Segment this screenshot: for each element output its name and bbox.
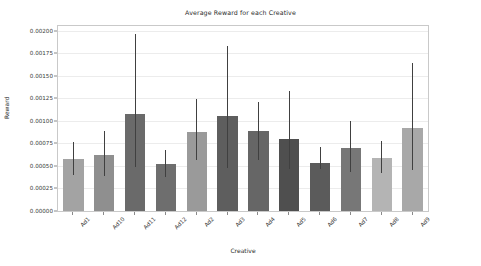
gridline bbox=[58, 53, 428, 54]
error-bar-ad2 bbox=[196, 99, 197, 159]
x-tick-mark bbox=[257, 212, 258, 215]
x-tick-label-ad5: Ad5 bbox=[295, 216, 307, 228]
x-tick-label-ad2: Ad2 bbox=[203, 216, 215, 228]
y-tick-label: 0.00175 bbox=[30, 50, 53, 56]
x-tick-mark bbox=[196, 212, 197, 215]
x-tick-label-ad9: Ad9 bbox=[419, 216, 431, 228]
y-tick-label: 0.00150 bbox=[30, 73, 53, 79]
x-tick-mark bbox=[350, 212, 351, 215]
x-tick-label-ad6: Ad6 bbox=[326, 216, 338, 228]
gridline bbox=[58, 98, 428, 99]
error-bar-ad1 bbox=[73, 142, 74, 174]
error-bar-ad6 bbox=[320, 147, 321, 170]
gridline bbox=[58, 31, 428, 32]
x-tick-mark bbox=[412, 212, 413, 215]
x-axis-tick-layer: Ad1Ad10Ad11Ad12Ad2Ad3Ad4Ad5Ad6Ad7Ad8Ad9 bbox=[57, 212, 429, 246]
gridline bbox=[58, 76, 428, 77]
y-tick-label: 0.00100 bbox=[30, 118, 53, 124]
y-tick-label: 0.00075 bbox=[30, 140, 53, 146]
x-tick-mark bbox=[381, 212, 382, 215]
x-tick-mark bbox=[165, 212, 166, 215]
y-tick-label: 0.00025 bbox=[30, 185, 53, 191]
x-tick-label-ad7: Ad7 bbox=[357, 216, 369, 228]
plot-area bbox=[57, 25, 429, 212]
chart-title: Average Reward for each Creative bbox=[0, 9, 481, 16]
error-bar-ad4 bbox=[258, 102, 259, 160]
error-bar-ad5 bbox=[289, 91, 290, 170]
x-tick-label-ad10: Ad10 bbox=[111, 216, 125, 230]
x-tick-mark bbox=[134, 212, 135, 215]
x-tick-label-ad12: Ad12 bbox=[173, 216, 187, 230]
chart-figure: Average Reward for each Creative Reward … bbox=[0, 0, 481, 266]
bar-ad6 bbox=[310, 163, 330, 211]
x-tick-mark bbox=[319, 212, 320, 215]
y-tick-label: 0.00200 bbox=[30, 28, 53, 34]
y-tick-label: 0.00050 bbox=[30, 163, 53, 169]
error-bar-ad3 bbox=[227, 46, 228, 168]
x-tick-label-ad3: Ad3 bbox=[234, 216, 246, 228]
error-bar-ad11 bbox=[135, 34, 136, 167]
error-bar-ad9 bbox=[412, 63, 413, 170]
y-tick-label: 0.00125 bbox=[30, 95, 53, 101]
y-tick-label: 0.00000 bbox=[30, 208, 53, 214]
x-tick-label-ad1: Ad1 bbox=[80, 216, 92, 228]
gridline bbox=[58, 143, 428, 144]
error-bar-ad8 bbox=[381, 141, 382, 173]
gridline bbox=[58, 121, 428, 122]
x-tick-label-ad8: Ad8 bbox=[388, 216, 400, 228]
error-bar-ad12 bbox=[165, 150, 166, 177]
y-axis-tick-layer: 0.000000.000250.000500.000750.001000.001… bbox=[0, 25, 57, 212]
x-tick-mark bbox=[288, 212, 289, 215]
x-axis-label: Creative bbox=[57, 247, 429, 254]
x-tick-mark bbox=[72, 212, 73, 215]
error-bar-ad7 bbox=[350, 121, 351, 172]
x-tick-mark bbox=[227, 212, 228, 215]
x-tick-mark bbox=[103, 212, 104, 215]
error-bar-ad10 bbox=[104, 131, 105, 176]
x-tick-label-ad4: Ad4 bbox=[265, 216, 277, 228]
x-tick-label-ad11: Ad11 bbox=[142, 216, 156, 230]
